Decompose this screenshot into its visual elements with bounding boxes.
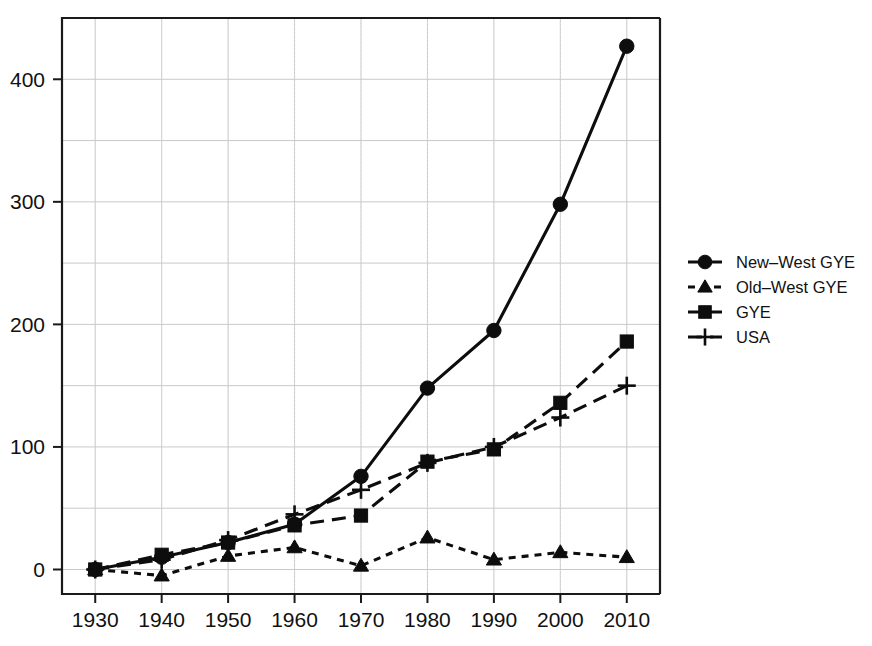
- chart-background: [0, 0, 872, 646]
- data-point-marker: [420, 381, 434, 395]
- y-axis-tick-label: 200: [10, 313, 45, 336]
- data-point-marker: [620, 335, 633, 348]
- x-axis-tick-label: 1950: [205, 608, 252, 631]
- x-axis-tick-label: 2010: [603, 608, 650, 631]
- legend-entry-label: Old–West GYE: [736, 278, 848, 296]
- legend-key-marker: [699, 306, 712, 319]
- legend-key-marker: [698, 255, 712, 269]
- y-axis-tick-label: 300: [10, 190, 45, 213]
- x-axis-tick-label: 2000: [537, 608, 584, 631]
- data-point-marker: [487, 323, 501, 337]
- chart-container: 193019401950196019701980199020002010 010…: [0, 0, 872, 646]
- legend-entry-label: GYE: [736, 303, 771, 321]
- x-axis-tick-label: 1940: [138, 608, 185, 631]
- x-axis-tick-labels: 193019401950196019701980199020002010: [72, 608, 650, 631]
- x-axis-tick-label: 1970: [338, 608, 385, 631]
- data-point-marker: [620, 39, 634, 53]
- y-axis-tick-label: 400: [10, 68, 45, 91]
- x-axis-tick-label: 1960: [271, 608, 318, 631]
- line-chart: 193019401950196019701980199020002010 010…: [0, 0, 872, 646]
- legend-entry-label: USA: [736, 328, 770, 346]
- data-point-marker: [354, 509, 367, 522]
- y-axis-tick-label: 0: [33, 558, 45, 581]
- data-point-marker: [554, 396, 567, 409]
- legend-entry-label: New–West GYE: [736, 253, 855, 271]
- x-axis-tick-label: 1990: [471, 608, 518, 631]
- data-point-marker: [553, 197, 567, 211]
- x-axis-tick-label: 1930: [72, 608, 119, 631]
- y-axis-tick-label: 100: [10, 435, 45, 458]
- x-axis-tick-label: 1980: [404, 608, 451, 631]
